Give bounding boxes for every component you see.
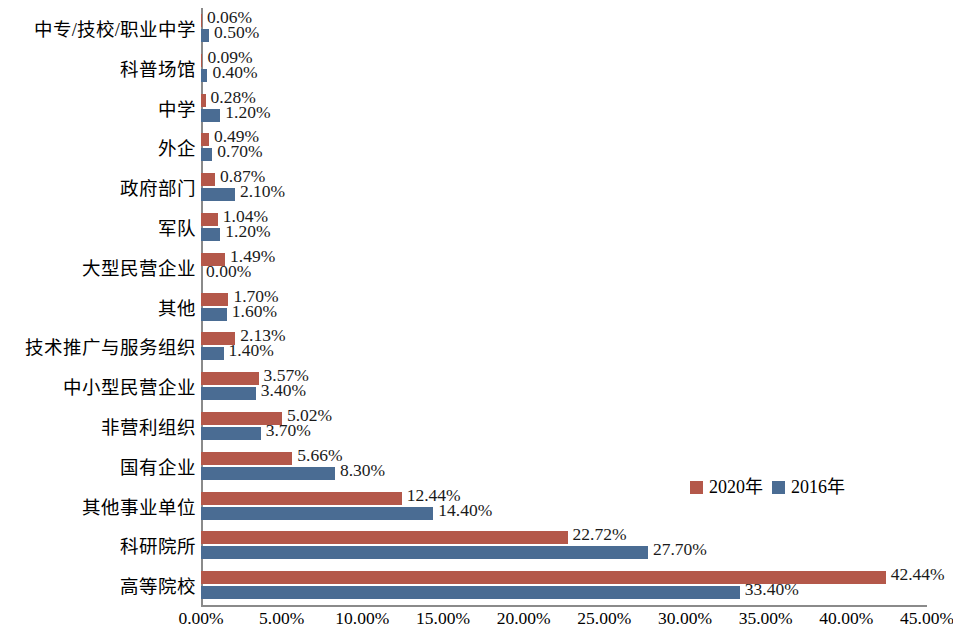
category-label: 政府部门 xyxy=(120,174,196,200)
bar-2020年-中专/技校/职业中学 xyxy=(201,14,202,27)
category-label: 其他 xyxy=(158,294,196,320)
bar-2016年-外企 xyxy=(201,148,212,161)
bar-value-label: 3.40% xyxy=(261,384,306,397)
category-label: 军队 xyxy=(158,214,196,240)
bar-2016年-政府部门 xyxy=(201,188,235,201)
x-axis-line xyxy=(201,605,927,607)
bar-value-label: 5.66% xyxy=(297,449,342,462)
bar-value-label: 2.10% xyxy=(240,185,285,198)
bar-value-label: 1.20% xyxy=(225,225,270,238)
bar-2016年-高等院校 xyxy=(201,586,740,599)
category-label: 大型民营企业 xyxy=(82,254,196,280)
bar-value-label: 1.40% xyxy=(229,344,274,357)
category-label: 高等院校 xyxy=(120,572,196,598)
category-label: 技术推广与服务组织 xyxy=(25,333,196,359)
category-label: 其他事业单位 xyxy=(82,493,196,519)
bar-value-label: 1.20% xyxy=(225,106,270,119)
x-tick-label: 30.00% xyxy=(658,608,712,629)
bar-value-label: 33.40% xyxy=(745,583,799,596)
x-tick-label: 45.00% xyxy=(900,608,953,629)
bar-value-label: 1.60% xyxy=(232,305,277,318)
bar-2020年-政府部门 xyxy=(201,173,215,186)
bar-2020年-其他事业单位 xyxy=(201,492,402,505)
x-tick-label: 35.00% xyxy=(739,608,793,629)
bar-2020年-中小型民营企业 xyxy=(201,372,259,385)
bar-value-label: 14.40% xyxy=(438,504,492,517)
x-tick-label: 15.00% xyxy=(416,608,470,629)
legend-label-2020: 2020年 xyxy=(709,478,763,496)
legend-item-2020: 2020年 xyxy=(690,478,763,496)
bar-2020年-科研院所 xyxy=(201,531,568,544)
bar-2016年-科研院所 xyxy=(201,546,648,559)
bar-2016年-非营利组织 xyxy=(201,427,261,440)
bar-value-label: 0.70% xyxy=(217,145,262,158)
bar-2020年-外企 xyxy=(201,133,209,146)
bar-2016年-军队 xyxy=(201,228,220,241)
category-label: 外企 xyxy=(158,134,196,160)
bar-2016年-技术推广与服务组织 xyxy=(201,347,224,360)
x-tick-label: 5.00% xyxy=(259,608,304,629)
x-tick-label: 10.00% xyxy=(335,608,389,629)
bar-2016年-中小型民营企业 xyxy=(201,387,256,400)
x-tick-label: 20.00% xyxy=(497,608,551,629)
bar-2016年-国有企业 xyxy=(201,467,335,480)
plot-area: 0.06%0.50%0.09%0.40%0.28%1.20%0.49%0.70%… xyxy=(201,8,927,605)
x-tick-label: 0.00% xyxy=(178,608,223,629)
bar-value-label: 27.70% xyxy=(653,543,707,556)
bar-2016年-科普场馆 xyxy=(201,69,207,82)
category-label: 科普场馆 xyxy=(120,55,196,81)
chart-legend: 2020年 2016年 xyxy=(690,478,845,496)
category-label: 中学 xyxy=(158,95,196,121)
legend-swatch-2016-icon xyxy=(772,481,785,494)
x-tick-label: 25.00% xyxy=(577,608,631,629)
chart-page: 中专/技校/职业中学科普场馆中学外企政府部门军队大型民营企业其他技术推广与服务组… xyxy=(0,0,953,631)
category-label: 中小型民营企业 xyxy=(63,373,196,399)
bar-2020年-军队 xyxy=(201,213,218,226)
legend-label-2016: 2016年 xyxy=(791,478,845,496)
legend-swatch-2020-icon xyxy=(690,481,703,494)
category-label: 中专/技校/职业中学 xyxy=(34,15,196,41)
bar-value-label: 0.40% xyxy=(212,66,257,79)
category-label: 国有企业 xyxy=(120,453,196,479)
legend-item-2016: 2016年 xyxy=(772,478,845,496)
bar-value-label: 8.30% xyxy=(340,464,385,477)
bar-2020年-国有企业 xyxy=(201,452,292,465)
bar-2016年-其他事业单位 xyxy=(201,507,433,520)
bar-value-label: 42.44% xyxy=(891,568,945,581)
bar-value-label: 0.00% xyxy=(206,265,251,278)
bar-2016年-中学 xyxy=(201,109,220,122)
bar-2016年-其他 xyxy=(201,308,227,321)
bar-2016年-中专/技校/职业中学 xyxy=(201,29,209,42)
bar-2020年-科普场馆 xyxy=(201,54,202,67)
bar-value-label: 22.72% xyxy=(573,528,627,541)
category-axis: 中专/技校/职业中学科普场馆中学外企政府部门军队大型民营企业其他技术推广与服务组… xyxy=(0,8,196,605)
bar-value-label: 3.70% xyxy=(266,424,311,437)
category-label: 非营利组织 xyxy=(101,413,196,439)
bar-2020年-其他 xyxy=(201,293,228,306)
bar-value-label: 0.50% xyxy=(214,26,259,39)
category-label: 科研院所 xyxy=(120,532,196,558)
bar-2020年-中学 xyxy=(201,94,206,107)
x-tick-label: 40.00% xyxy=(819,608,873,629)
